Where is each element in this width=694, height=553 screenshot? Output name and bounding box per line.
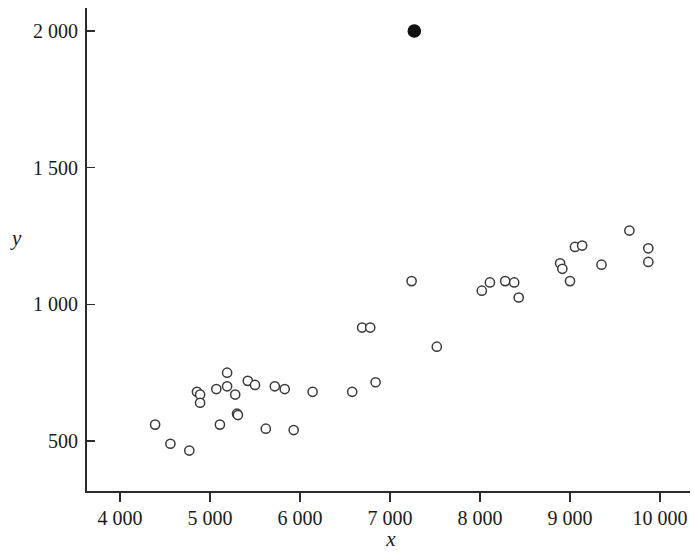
data-point [501, 277, 510, 286]
data-point [348, 387, 357, 396]
data-point [185, 446, 194, 455]
x-tick-label: 9 000 [548, 507, 593, 529]
data-point [477, 286, 486, 295]
data-point [366, 323, 375, 332]
axis-lines [86, 8, 690, 492]
data-point [270, 382, 279, 391]
x-axis-ticks: 4 0005 0006 0007 0008 0009 00010 000 [98, 492, 688, 529]
data-point [432, 342, 441, 351]
data-point [644, 244, 653, 253]
axes [86, 8, 690, 492]
data-point [308, 387, 317, 396]
data-point [510, 278, 519, 287]
x-axis-label: x [385, 527, 396, 551]
plot-canvas: 5001 0001 5002 000 4 0005 0006 0007 0008… [0, 0, 694, 553]
data-point [514, 293, 523, 302]
data-point [565, 277, 574, 286]
data-point [231, 390, 240, 399]
data-point [597, 260, 606, 269]
x-tick-label: 6 000 [278, 507, 323, 529]
data-point [558, 264, 567, 273]
data-points [151, 25, 653, 455]
x-tick-label: 7 000 [368, 507, 413, 529]
data-point [261, 424, 270, 433]
y-tick-label: 2 000 [33, 20, 78, 42]
data-point [250, 380, 259, 389]
y-tick-label: 1 500 [33, 157, 78, 179]
data-point [223, 368, 232, 377]
y-tick-label: 1 000 [33, 293, 78, 315]
data-point [223, 382, 232, 391]
data-point [215, 420, 224, 429]
data-point [151, 420, 160, 429]
data-point [233, 410, 242, 419]
data-point-outlier [408, 25, 420, 37]
data-point [289, 425, 298, 434]
data-point [212, 384, 221, 393]
data-point [407, 277, 416, 286]
x-tick-label: 10 000 [633, 507, 688, 529]
data-point [280, 384, 289, 393]
scatter-plot-figure: 5001 0001 5002 000 4 0005 0006 0007 0008… [0, 0, 694, 553]
data-point [166, 439, 175, 448]
data-point [485, 278, 494, 287]
data-point [644, 257, 653, 266]
data-point [578, 241, 587, 250]
data-point [196, 398, 205, 407]
data-point [371, 378, 380, 387]
x-tick-label: 5 000 [188, 507, 233, 529]
data-point [625, 226, 634, 235]
y-tick-label: 500 [48, 430, 78, 452]
x-tick-label: 4 000 [98, 507, 143, 529]
x-tick-label: 8 000 [458, 507, 503, 529]
y-axis-label: y [10, 226, 22, 250]
